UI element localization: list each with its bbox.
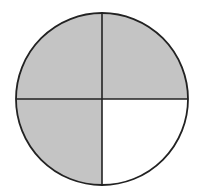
quadrant-bottom-right	[102, 99, 198, 188]
fraction-circle-svg	[0, 0, 198, 188]
fraction-circle-diagram	[0, 0, 198, 188]
quadrant-bottom-left	[0, 99, 102, 188]
